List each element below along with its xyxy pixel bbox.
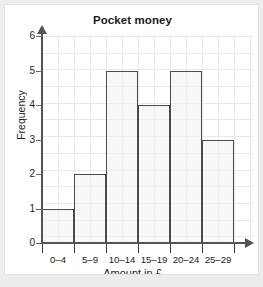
x-axis-line [41, 242, 246, 244]
x-tick-mark [170, 244, 171, 253]
y-axis-line [41, 32, 43, 244]
bar-series [42, 36, 253, 243]
x-axis-title: Amount in £ [5, 267, 259, 275]
bar-20-24 [170, 71, 202, 244]
x-tick-label: 25–29 [198, 254, 238, 265]
chart-card: Pocket money 0123456 0–45–910–1415–1920–… [4, 4, 259, 275]
y-tick-label: 1 [24, 204, 35, 214]
y-tick-mark [36, 209, 42, 210]
x-tick-mark [138, 244, 139, 253]
x-tick-mark [74, 244, 75, 253]
y-tick-label: 6 [24, 31, 35, 41]
bar-25-29 [202, 140, 234, 244]
bar-5-9 [74, 174, 106, 243]
y-tick-label: 2 [24, 169, 35, 179]
y-tick-mark [36, 105, 42, 106]
x-tick-mark [106, 244, 107, 253]
y-tick-mark [36, 140, 42, 141]
y-tick-mark [36, 174, 42, 175]
y-tick-label: 0 [24, 238, 35, 248]
y-tick-mark [36, 36, 42, 37]
plot-area [42, 36, 253, 243]
bar-0-4 [42, 209, 74, 244]
y-tick-mark [36, 71, 42, 72]
x-tick-mark [234, 244, 235, 253]
x-axis-arrow-icon [245, 238, 254, 248]
y-axis-arrow-icon [37, 25, 47, 34]
y-tick-label: 5 [24, 66, 35, 76]
y-axis-title: Frequency [15, 75, 27, 155]
x-tick-mark [202, 244, 203, 253]
x-tick-mark [42, 244, 43, 253]
bar-15-19 [138, 105, 170, 243]
bar-10-14 [106, 71, 138, 244]
